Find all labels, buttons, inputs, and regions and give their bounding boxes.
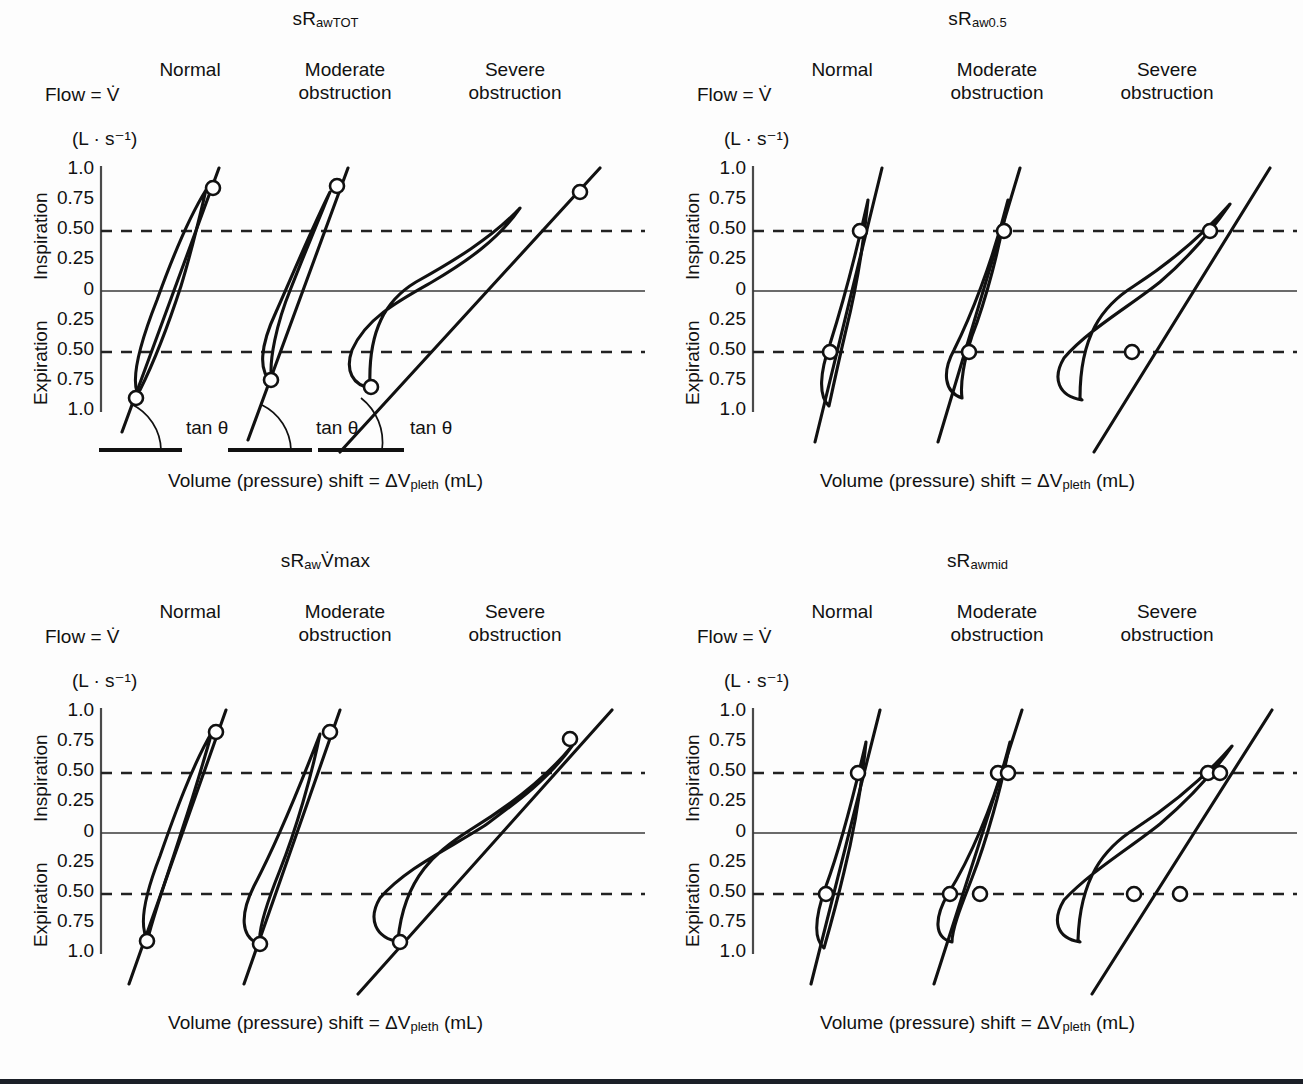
marker-flow-exp-0.50 (1125, 345, 1139, 359)
tan-theta-label: tan θ (186, 417, 228, 438)
marker-peak-expiratory (264, 373, 278, 387)
marker-peak-inspiratory (209, 725, 223, 739)
marker-flow-insp-0.50-b (1213, 766, 1227, 780)
x-axis-label-prefix: Volume (pressure) shift = ΔV (820, 1012, 1062, 1033)
marker-flow-exp-0.50-b (973, 887, 987, 901)
marker-flow-exp-0.50-b (1173, 887, 1187, 901)
panel-sRawTOT: sRawTOT Normal Moderateobstruction Sever… (0, 0, 651, 540)
x-axis-label: Volume (pressure) shift = ΔVpleth (mL) (652, 470, 1303, 492)
loop-normal (144, 732, 212, 940)
x-axis-label-sub: pleth (1062, 1019, 1090, 1034)
marker-peak-inspiratory (206, 181, 220, 195)
x-axis-label-suffix: (mL) (1091, 470, 1135, 491)
secant-normal (811, 710, 880, 984)
marker-flow-insp-0.50 (997, 224, 1011, 238)
x-axis-label-prefix: Volume (pressure) shift = ΔV (820, 470, 1062, 491)
plot-area: tan θ tan θ tan θ (0, 0, 651, 540)
angle-arc (262, 405, 291, 450)
marker-flow-insp-0.50 (853, 224, 867, 238)
secant-moderate (248, 168, 348, 440)
marker-flow-exp-0.50-a (1127, 887, 1141, 901)
x-axis-label-prefix: Volume (pressure) shift = ΔV (168, 470, 410, 491)
plot-area (652, 542, 1303, 1082)
x-axis-label: Volume (pressure) shift = ΔVpleth (mL) (0, 470, 651, 492)
secant-moderate (934, 710, 1022, 984)
x-axis-label-sub: pleth (410, 477, 438, 492)
tan-theta-label: tan θ (316, 417, 358, 438)
marker-peak-inspiratory (573, 185, 587, 199)
angle-arc (131, 404, 161, 450)
loop-severe (374, 746, 572, 942)
panel-sRawmid: sRawmid Normal Moderateobstruction Sever… (652, 542, 1303, 1082)
marker-peak-inspiratory (323, 725, 337, 739)
secant-severe (358, 710, 612, 994)
marker-flow-exp-0.50 (823, 345, 837, 359)
marker-peak-expiratory (364, 380, 378, 394)
x-axis-label-prefix: Volume (pressure) shift = ΔV (168, 1012, 410, 1033)
x-axis-label-sub: pleth (410, 1019, 438, 1034)
secant-severe (340, 168, 600, 452)
marker-peak-inspiratory (563, 732, 577, 746)
x-axis-label-suffix: (mL) (439, 1012, 483, 1033)
loop-moderate (244, 734, 320, 944)
marker-flow-exp-0.50 (962, 345, 976, 359)
x-axis-label-suffix: (mL) (439, 470, 483, 491)
marker-peak-expiratory (129, 391, 143, 405)
secant-severe (1092, 710, 1272, 994)
bottom-edge-strip (0, 1079, 1303, 1084)
marker-peak-expiratory (140, 934, 154, 948)
x-axis-label-suffix: (mL) (1091, 1012, 1135, 1033)
x-axis-label: Volume (pressure) shift = ΔVpleth (mL) (652, 1012, 1303, 1034)
panel-sRawVmax: sRawV̇max Normal Moderateobstruction Sev… (0, 542, 651, 1082)
marker-peak-inspiratory (330, 179, 344, 193)
marker-flow-insp-0.50-a (851, 766, 865, 780)
figure-root: sRawTOT Normal Moderateobstruction Sever… (0, 0, 1303, 1084)
marker-flow-exp-0.50-a (819, 887, 833, 901)
marker-flow-insp-0.50-b (1001, 766, 1015, 780)
secant-normal (815, 168, 882, 442)
marker-peak-expiratory (393, 935, 407, 949)
marker-flow-insp-0.50 (1203, 224, 1217, 238)
tan-theta-label: tan θ (410, 417, 452, 438)
x-axis-label: Volume (pressure) shift = ΔVpleth (mL) (0, 1012, 651, 1034)
secant-moderate (938, 168, 1020, 442)
loop-severe (349, 208, 520, 388)
x-axis-label-sub: pleth (1062, 477, 1090, 492)
marker-flow-exp-0.50-a (943, 887, 957, 901)
plot-area (652, 0, 1303, 540)
panel-sRaw05: sRaw0.5 Normal Moderateobstruction Sever… (652, 0, 1303, 540)
plot-area (0, 542, 651, 1082)
marker-peak-expiratory (253, 937, 267, 951)
loop-moderate (263, 192, 330, 382)
